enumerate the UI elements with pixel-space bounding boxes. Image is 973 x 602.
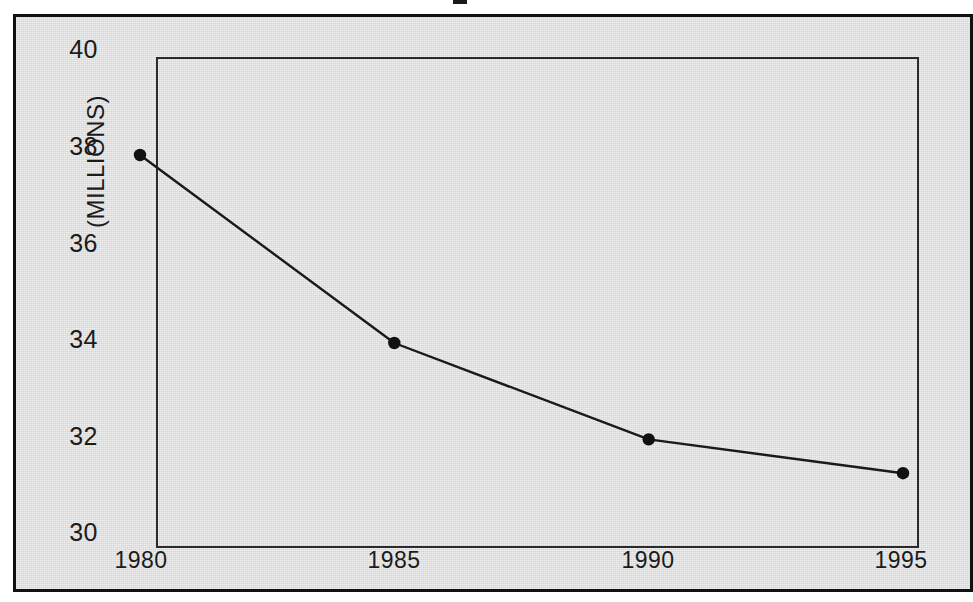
y-axis-tick-36: 36 — [28, 231, 98, 256]
x-axis-tick-1995: 1995 — [841, 549, 961, 572]
y-axis-tick-30: 30 — [28, 520, 98, 545]
y-axis-label: (MILLIONS) — [84, 95, 108, 228]
x-axis-tick-1990: 1990 — [588, 549, 708, 572]
y-axis-tick-32: 32 — [28, 424, 98, 449]
y-axis-tick-34: 34 — [28, 327, 98, 352]
x-axis-tick-1980: 1980 — [81, 549, 201, 572]
x-axis-tick-1985: 1985 — [334, 549, 454, 572]
figure-outer-frame — [13, 14, 973, 592]
y-axis-tick-40: 40 — [28, 37, 98, 62]
plot-area-border — [156, 57, 919, 548]
cropped-title-fragment — [453, 0, 467, 4]
